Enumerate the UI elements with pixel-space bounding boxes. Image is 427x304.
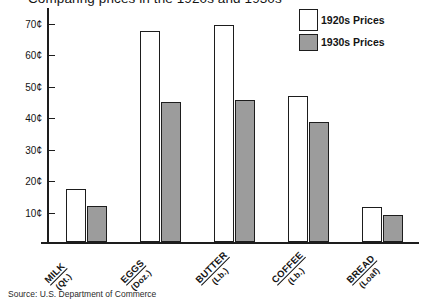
bar-1930s xyxy=(383,215,403,242)
bar-1920s xyxy=(214,25,234,242)
x-label-cell: MILK(Qt.) xyxy=(49,247,125,295)
bar-1930s xyxy=(309,122,329,242)
y-tick-label: 20¢ xyxy=(25,176,42,187)
bar-1930s xyxy=(87,206,107,242)
x-label-cell: EGGS(Doz.) xyxy=(125,247,201,295)
legend-swatch-1920s xyxy=(299,9,318,31)
bar-group xyxy=(123,8,197,242)
bar-1920s xyxy=(66,189,86,242)
y-tick-label: 50¢ xyxy=(25,81,42,92)
x-label-cell: COFFEE(Lb.) xyxy=(276,247,352,295)
legend-label-1930s: 1930s Prices xyxy=(321,36,385,48)
y-tick-label: 10¢ xyxy=(25,207,42,218)
legend-item-1920s: 1920s Prices xyxy=(299,9,385,31)
x-axis xyxy=(41,242,419,244)
bar-1930s xyxy=(161,102,181,242)
bar-1920s xyxy=(288,96,308,242)
x-label-cell: BUTTER(Lb.) xyxy=(200,247,276,295)
chart-root: Comparing prices in the 1920s and 1930s … xyxy=(0,0,427,304)
chart-title: Comparing prices in the 1920s and 1930s xyxy=(28,0,282,6)
legend-item-1930s: 1930s Prices xyxy=(299,31,385,53)
y-tick-label: 70¢ xyxy=(25,18,42,29)
x-axis-labels: MILK(Qt.)EGGS(Doz.)BUTTER(Lb.)COFFEE(Lb.… xyxy=(49,247,427,295)
bar-1930s xyxy=(235,100,255,242)
x-axis-label: BREAD(Loaf) xyxy=(345,253,386,294)
y-tick-label: 60¢ xyxy=(25,50,42,61)
bar-1920s xyxy=(140,31,160,242)
y-tick-label: 30¢ xyxy=(25,144,42,155)
y-tick-label: 40¢ xyxy=(25,113,42,124)
x-axis-label: BUTTER(Lb.) xyxy=(193,249,237,293)
bar-group xyxy=(49,8,123,242)
x-label-cell: BREAD(Loaf) xyxy=(351,247,427,295)
source-note: Source: U.S. Department of Commerce xyxy=(8,289,156,299)
bar-1920s xyxy=(362,207,382,242)
x-axis-label: COFFEE(Lb.) xyxy=(269,249,313,293)
chart-legend: 1920s Prices 1930s Prices xyxy=(299,9,385,53)
legend-swatch-1930s xyxy=(299,34,318,51)
legend-label-1920s: 1920s Prices xyxy=(321,14,385,26)
bar-group xyxy=(197,8,271,242)
